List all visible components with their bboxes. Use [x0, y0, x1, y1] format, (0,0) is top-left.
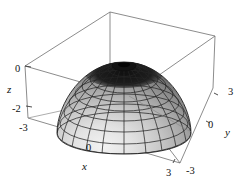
x-axis-tick-3: 3 — [166, 168, 171, 179]
dome-surface — [57, 56, 191, 155]
box-edge-top-back-left — [25, 12, 110, 66]
y-axis-label: y — [225, 127, 230, 138]
tick-mark-z-minus2 — [26, 106, 32, 107]
z-axis-label: z — [7, 84, 11, 95]
y-axis-tick-0: 0 — [208, 120, 213, 131]
x-axis-tick-0: 0 — [86, 143, 91, 154]
z-axis-tick-minus2: -2 — [12, 104, 21, 115]
tick-mark-y-3 — [214, 93, 218, 95]
box-edge-vert-left — [25, 66, 28, 118]
y-axis-tick-minus3: -3 — [186, 166, 195, 177]
box-edge-vert-right — [213, 36, 215, 88]
box-edge-top-back-right — [110, 12, 215, 36]
surface-plot-figure: z 0 -2 x 0 3 -3 y -3 0 3 — [0, 0, 244, 191]
x-axis-label: x — [82, 161, 87, 172]
y-axis-tick-3: 3 — [228, 87, 233, 98]
tick-mark-z-0 — [25, 66, 31, 67]
z-axis-tick-0: 0 — [15, 64, 20, 75]
surface-plot-canvas — [0, 0, 244, 191]
origin-corner-label: -3 — [19, 123, 28, 134]
